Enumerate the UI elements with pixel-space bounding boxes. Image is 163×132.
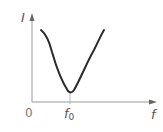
resonance-diagram: I f 0 f0	[0, 0, 163, 132]
resonance-curve	[41, 30, 104, 92]
f0-label-sub: 0	[69, 112, 75, 122]
x-axis-label: f	[151, 107, 158, 122]
x-axis-arrow-icon	[149, 100, 157, 105]
y-axis-label: I	[21, 10, 25, 25]
y-axis-arrow-icon	[30, 13, 35, 21]
f0-label: f0	[64, 106, 75, 122]
origin-label: 0	[25, 106, 33, 120]
